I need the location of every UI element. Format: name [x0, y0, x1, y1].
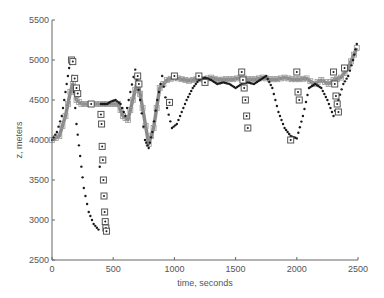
dot-marker: [331, 111, 333, 113]
dot-marker: [144, 139, 146, 141]
dot-marker: [56, 131, 58, 133]
dot-marker: [129, 91, 131, 93]
dot-marker: [306, 94, 308, 96]
dot-marker: [320, 87, 322, 89]
dot-marker: [349, 69, 351, 71]
dot-marker: [146, 144, 148, 146]
dot-marker: [124, 115, 126, 117]
dot-marker: [322, 90, 324, 92]
dot-marker: [147, 147, 149, 149]
dot-marker: [149, 141, 151, 143]
y-tick-label: 5000: [29, 55, 49, 65]
y-axis-label: z, meters: [14, 121, 24, 159]
dot-marker: [159, 83, 161, 85]
square-center-dot: [241, 71, 243, 73]
dot-marker: [288, 133, 290, 135]
dot-marker: [64, 91, 66, 93]
dot-marker: [97, 228, 99, 230]
dot-marker: [153, 120, 155, 122]
dot-marker: [151, 131, 153, 133]
dot-marker: [65, 83, 67, 85]
square-center-dot: [337, 111, 339, 113]
square-center-dot: [297, 91, 299, 93]
dot-marker: [302, 115, 304, 117]
dot-marker: [99, 166, 101, 168]
dot-marker: [282, 123, 284, 125]
dot-marker: [176, 123, 178, 125]
square-center-dot: [244, 99, 246, 101]
dot-marker: [164, 96, 166, 98]
x-tick-label: 500: [106, 264, 121, 274]
dot-marker: [179, 115, 181, 117]
dot-marker: [96, 227, 98, 229]
square-center-dot: [101, 123, 103, 125]
square-center-dot: [75, 87, 77, 89]
dot-marker: [342, 83, 344, 85]
dot-marker: [80, 165, 82, 167]
dot-marker: [329, 107, 331, 109]
dot-marker: [137, 89, 139, 91]
square-center-dot: [101, 145, 103, 147]
dot-marker: [91, 219, 93, 221]
dot-marker: [354, 48, 356, 50]
dot-marker: [185, 99, 187, 101]
dot-marker: [196, 81, 198, 83]
dot-marker: [161, 75, 163, 77]
dot-marker: [353, 53, 355, 55]
square-center-dot: [100, 113, 102, 115]
dot-marker: [83, 187, 85, 189]
dot-marker: [187, 96, 189, 98]
dot-marker: [265, 75, 267, 77]
dot-marker: [128, 99, 130, 101]
dot-marker: [268, 81, 270, 83]
dot-marker: [77, 133, 79, 135]
dot-marker: [274, 99, 276, 101]
dot-marker: [184, 103, 186, 105]
dot-marker: [181, 111, 183, 113]
dot-marker: [276, 105, 278, 107]
dot-marker: [286, 131, 288, 133]
x-axis-label: time, seconds: [177, 278, 233, 288]
square-center-dot: [290, 139, 292, 141]
dot-marker: [94, 225, 96, 227]
square-center-dot: [102, 159, 104, 161]
square-center-dot: [105, 230, 107, 232]
y-tick-label: 4500: [29, 95, 49, 105]
dot-marker: [163, 85, 165, 87]
dot-marker: [126, 107, 128, 109]
dot-marker: [350, 64, 352, 66]
x-tick-label: 2500: [348, 264, 368, 274]
dot-marker: [88, 211, 90, 213]
dot-marker: [300, 120, 302, 122]
dot-marker: [285, 129, 287, 131]
square-center-dot: [247, 127, 249, 129]
square-center-dot: [102, 179, 104, 181]
dot-marker: [84, 195, 86, 197]
dot-marker: [279, 115, 281, 117]
square-center-dot: [344, 67, 346, 69]
dot-marker: [347, 75, 349, 77]
series-track-line: [52, 48, 357, 144]
dot-marker: [340, 88, 342, 90]
dot-marker: [195, 83, 197, 85]
dot-marker: [54, 133, 56, 135]
square-center-dot: [72, 61, 74, 63]
dot-marker: [63, 99, 65, 101]
square-center-dot: [103, 195, 105, 197]
dot-marker: [189, 93, 191, 95]
x-tick-label: 2000: [287, 264, 307, 274]
dot-marker: [280, 119, 282, 121]
dot-marker: [61, 115, 63, 117]
dot-marker: [270, 84, 272, 86]
dot-marker: [79, 155, 81, 157]
dot-marker: [177, 119, 179, 121]
square-center-dot: [246, 115, 248, 117]
dot-marker: [145, 141, 147, 143]
dot-marker: [134, 68, 136, 70]
square-center-dot: [334, 83, 336, 85]
x-tick-label: 0: [49, 264, 54, 274]
square-center-dot: [204, 81, 206, 83]
square-center-dot: [90, 103, 92, 105]
dot-marker: [332, 115, 334, 117]
dot-marker: [59, 120, 61, 122]
